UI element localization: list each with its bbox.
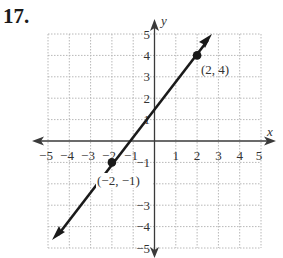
- x-axis-label: x: [266, 124, 273, 139]
- x-tick-labels: −5 −4 −3 −2 −1 1 2 3 4 5: [39, 148, 262, 163]
- y-tick: −3: [136, 198, 150, 213]
- point-neg2-neg1: [108, 158, 117, 167]
- x-tick: 2: [194, 148, 201, 163]
- y-tick: −4: [136, 219, 150, 234]
- y-tick: −5: [136, 241, 150, 256]
- x-tick: 5: [256, 148, 263, 163]
- y-tick: 2: [144, 91, 151, 106]
- y-tick: 4: [144, 48, 151, 63]
- y-axis: y: [150, 13, 167, 258]
- x-tick: 1: [173, 148, 180, 163]
- point-2-4-label: (2, 4): [201, 62, 229, 77]
- line-upper-arrow-icon: [199, 34, 212, 48]
- y-tick: 3: [144, 69, 151, 84]
- x-tick: −4: [60, 148, 74, 163]
- coordinate-graph: x y −5 −4 −3 −2 −1 1 2 3 4 5 5 4 3 2 1 −…: [0, 0, 283, 258]
- x-tick: 4: [236, 148, 243, 163]
- x-tick: −3: [81, 148, 95, 163]
- y-tick: −1: [136, 155, 150, 170]
- y-tick: 5: [144, 27, 151, 42]
- point-neg2-neg1-label: (−2, −1): [97, 173, 140, 188]
- y-axis-label: y: [159, 13, 167, 28]
- plotted-line: [52, 34, 212, 240]
- x-tick: −5: [39, 148, 53, 163]
- point-2-4: [193, 51, 202, 60]
- x-tick: 3: [215, 148, 222, 163]
